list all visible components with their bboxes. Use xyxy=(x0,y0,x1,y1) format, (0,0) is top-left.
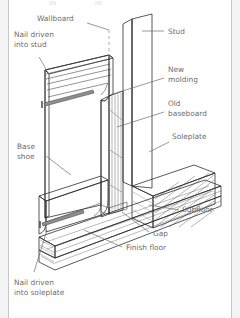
leader-wallboard xyxy=(87,23,109,30)
label-base-shoe-line2: shoe xyxy=(17,152,35,161)
label-subfloor: Subfloor xyxy=(182,205,214,214)
old-baseboard-part xyxy=(101,91,123,217)
label-finish-floor: Finish floor xyxy=(126,243,167,252)
cropped-title-remnant xyxy=(49,1,102,5)
label-nail-stud-line2: into stud xyxy=(14,40,47,49)
label-new-molding-line1: New xyxy=(168,65,184,74)
label-nail-stud-line1: Nail driven xyxy=(14,30,54,39)
label-wallboard: Wallboard xyxy=(37,14,74,23)
label-nail-soleplate-line2: into soleplate xyxy=(14,288,65,297)
label-soleplate: Soleplate xyxy=(172,132,207,141)
leader-base-shoe xyxy=(46,156,71,175)
new-molding-part xyxy=(45,55,113,218)
label-stud: Stud xyxy=(168,27,185,36)
leader-new-molding xyxy=(113,78,164,94)
stud-part xyxy=(123,14,152,188)
nail-into-stud xyxy=(42,90,94,108)
figure-panel: Wallboard Nail driven into stud Stud New… xyxy=(8,0,232,318)
label-nail-soleplate-line1: Nail driven xyxy=(14,278,54,287)
label-base-shoe-line1: Base xyxy=(17,142,35,151)
cutaway-illustration: Wallboard Nail driven into stud Stud New… xyxy=(9,0,232,318)
leader-finish-floor xyxy=(84,230,122,247)
label-new-molding-line2: molding xyxy=(168,75,198,84)
leader-subfloor xyxy=(149,205,179,210)
nail-into-soleplate xyxy=(40,210,84,228)
wall-plane xyxy=(39,70,45,234)
label-old-baseboard-line2: baseboard xyxy=(168,109,207,118)
figure-frame: Wallboard Nail driven into stud Stud New… xyxy=(0,0,240,318)
leader-old-baseboard xyxy=(117,112,164,127)
leader-nail-stud xyxy=(39,57,49,74)
label-gap: Gap xyxy=(153,229,168,238)
label-old-baseboard-line1: Old xyxy=(168,99,181,108)
